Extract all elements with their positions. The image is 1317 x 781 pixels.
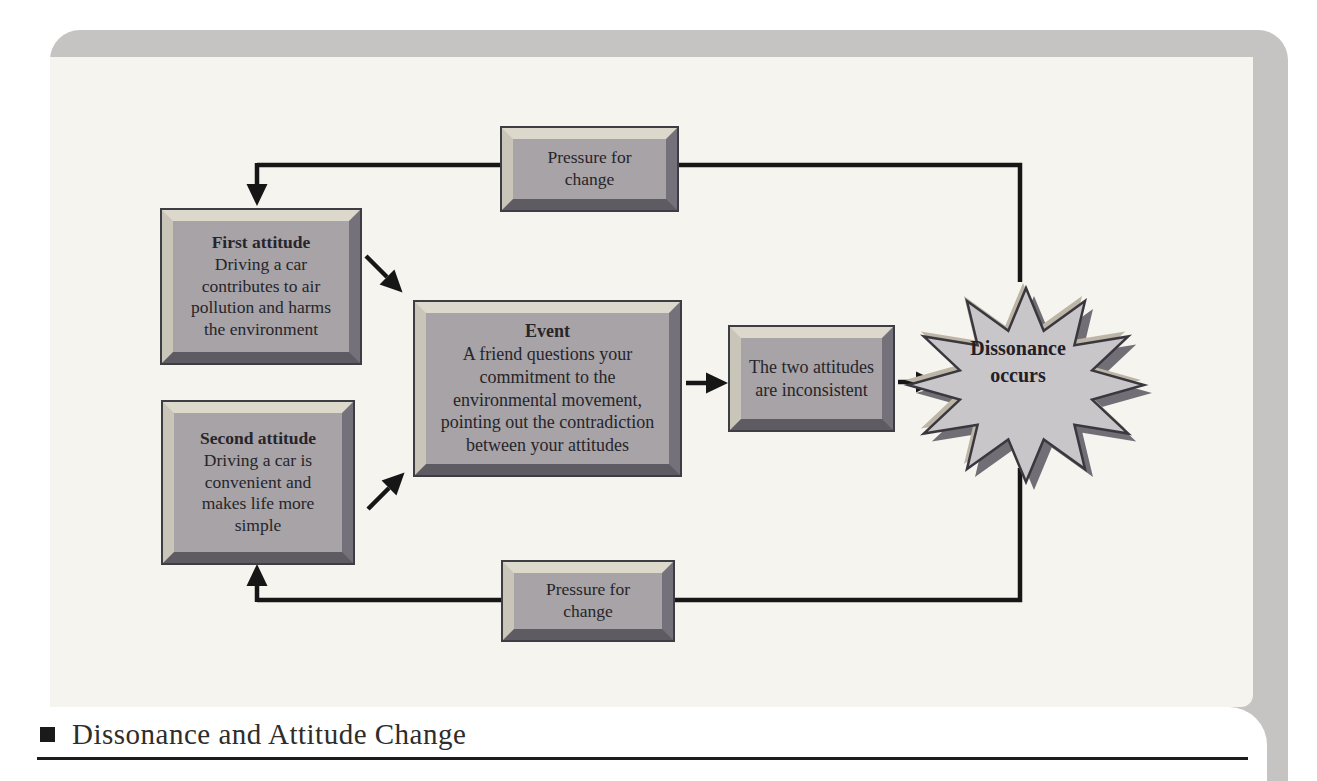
figure-caption-text: Dissonance and Attitude Change xyxy=(72,718,466,751)
node-two-attitudes-body: The two attitudes are inconsistent xyxy=(748,356,876,401)
node-first-attitude-title: First attitude xyxy=(212,232,311,254)
caption-rule xyxy=(37,757,1248,760)
node-pressure-bottom: Pressure for change xyxy=(503,562,673,640)
node-dissonance-label: Dissonance occurs xyxy=(948,335,1088,389)
node-pressure-bottom-label: Pressure for change xyxy=(532,579,644,622)
node-dissonance-burst: Dissonance occurs xyxy=(893,273,1153,499)
node-second-attitude-title: Second attitude xyxy=(200,428,316,450)
node-pressure-top-label: Pressure for change xyxy=(534,147,646,190)
node-first-attitude: First attitude Driving a car contributes… xyxy=(162,210,360,363)
square-bullet-icon xyxy=(40,727,55,742)
node-pressure-top: Pressure for change xyxy=(502,128,677,210)
node-second-attitude-body: Driving a car is convenient and makes li… xyxy=(183,450,333,537)
figure-caption: Dissonance and Attitude Change xyxy=(40,718,466,751)
node-event-body: A friend questions your commitment to th… xyxy=(429,343,667,456)
node-second-attitude: Second attitude Driving a car is conveni… xyxy=(163,402,353,563)
node-event: Event A friend questions your commitment… xyxy=(415,302,680,475)
node-event-title: Event xyxy=(525,320,570,343)
textbook-figure-page: Pressure for change First attitude Drivi… xyxy=(0,0,1317,781)
node-two-attitudes: The two attitudes are inconsistent xyxy=(730,327,893,430)
node-first-attitude-body: Driving a car contributes to air polluti… xyxy=(180,254,342,341)
